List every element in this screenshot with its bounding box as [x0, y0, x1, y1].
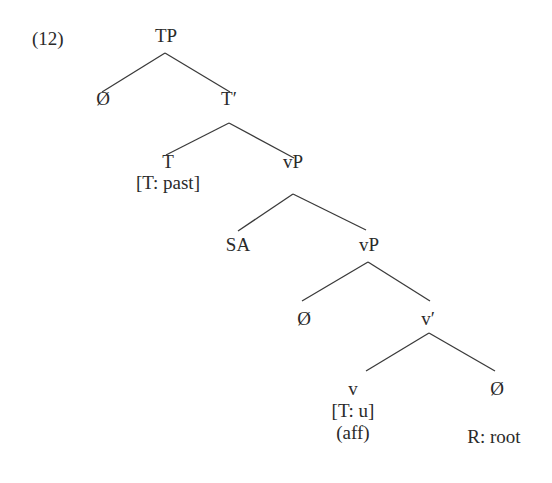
node-sa: SA — [226, 234, 250, 256]
node-spec-tp-null: Ø — [96, 88, 110, 110]
tree-edges — [0, 0, 552, 483]
edge-tp-spec — [102, 53, 165, 92]
t-feature-label: [T: past] — [136, 172, 200, 194]
edge-vp-vp — [293, 194, 366, 230]
node-spec-vp-null: Ø — [297, 308, 311, 330]
edge-vp-spec — [302, 262, 368, 301]
edge-vp-vbar — [368, 262, 430, 301]
node-vp-lower: vP — [359, 234, 379, 256]
v-aff-label: (aff) — [336, 422, 369, 444]
root-label: R: root — [467, 426, 520, 448]
edge-tbar-t — [166, 123, 229, 155]
node-t-bar: T′ — [221, 88, 237, 110]
node-v-head: v — [348, 378, 358, 400]
edge-tp-tbar — [165, 53, 230, 92]
node-v-bar: v′ — [421, 308, 435, 330]
node-t-head: T — [162, 151, 174, 173]
node-tp: TP — [155, 25, 177, 47]
node-vp-upper: vP — [283, 151, 303, 173]
edge-vp-sa — [238, 194, 293, 231]
edge-vbar-root — [429, 333, 495, 371]
v-feature-label: [T: u] — [332, 400, 375, 422]
edge-vbar-v — [366, 333, 429, 371]
node-root-null: Ø — [490, 378, 504, 400]
